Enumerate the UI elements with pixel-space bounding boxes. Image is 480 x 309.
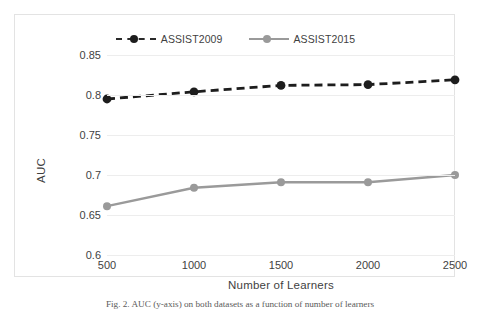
x-tick-label: 1500	[269, 259, 293, 271]
x-tick-label: 500	[98, 259, 116, 271]
y-tick-label: 0.8	[86, 89, 101, 101]
y-tick-label: 0.75	[80, 129, 101, 141]
y-tick-label: 0.65	[80, 209, 101, 221]
data-point	[364, 178, 372, 186]
legend-marker-dashed-icon	[116, 33, 156, 45]
x-tick-label: 2000	[356, 259, 380, 271]
chart-frame: ASSIST2009 ASSIST2015 AUC 0.850.80.750.7…	[14, 14, 455, 277]
plot-wrapper: AUC 0.850.80.750.70.650.6 50010001500200…	[29, 55, 470, 292]
data-point	[190, 184, 198, 192]
figure-caption: Fig. 2. AUC (y-axis) on both datasets as…	[0, 299, 480, 309]
gridline	[107, 255, 455, 256]
gridline	[107, 215, 455, 216]
legend-item-assist2009: ASSIST2009	[116, 33, 223, 45]
x-tick-label: 1000	[182, 259, 206, 271]
x-axis-ticks: 5001000150020002500	[107, 259, 455, 275]
legend-item-assist2015: ASSIST2015	[249, 33, 356, 45]
figure-container: ASSIST2009 ASSIST2015 AUC 0.850.80.750.7…	[0, 0, 480, 309]
legend-marker-solid-icon	[249, 33, 289, 45]
x-axis-title: Number of Learners	[107, 279, 455, 291]
chart-legend: ASSIST2009 ASSIST2015	[15, 29, 456, 49]
gridline	[107, 135, 455, 136]
data-point	[451, 75, 460, 84]
gridline	[107, 55, 455, 56]
y-axis-ticks: 0.850.80.750.70.650.6	[59, 55, 105, 255]
series-canvas	[107, 55, 455, 255]
legend-label-assist2009: ASSIST2009	[161, 33, 223, 45]
gridline	[107, 95, 455, 96]
gridline	[107, 175, 455, 176]
x-tick-label: 2500	[443, 259, 467, 271]
data-point	[277, 178, 285, 186]
legend-label-assist2015: ASSIST2015	[294, 33, 356, 45]
data-point	[277, 81, 286, 90]
plot-area	[107, 55, 455, 255]
y-tick-label: 0.7	[86, 169, 101, 181]
data-point	[103, 202, 111, 210]
y-tick-label: 0.85	[80, 49, 101, 61]
data-point	[364, 80, 373, 89]
